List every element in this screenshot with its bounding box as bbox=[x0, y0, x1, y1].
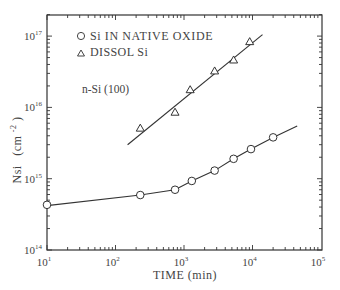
data-point-triangle bbox=[136, 124, 144, 131]
legend-triangle-marker-icon bbox=[78, 50, 85, 56]
data-point-triangle bbox=[186, 86, 194, 93]
x-tick-label: 102 bbox=[105, 255, 120, 268]
y-axis-title-close: ) bbox=[10, 117, 24, 122]
y-tick-label: 1015 bbox=[24, 172, 43, 185]
x-tick-label: 101 bbox=[37, 255, 52, 268]
data-point-circle bbox=[188, 177, 196, 185]
y-tick-label: 1017 bbox=[24, 29, 43, 42]
data-point-triangle bbox=[211, 67, 219, 74]
legend-label-native-oxide: Si IN NATIVE OXIDE bbox=[90, 29, 213, 43]
data-point-triangle bbox=[171, 108, 179, 115]
data-point-circle bbox=[211, 167, 219, 175]
legend-circle-marker-icon bbox=[77, 32, 84, 39]
fit-line bbox=[47, 126, 297, 206]
data-point-triangle bbox=[230, 56, 238, 63]
chart: 1011021031041051014101510161017 Si IN NA… bbox=[0, 0, 340, 290]
svg-text:Nsi (cm -2 ): Nsi (cm -2 ) bbox=[5, 117, 24, 184]
x-tick-label: 104 bbox=[242, 255, 257, 268]
data-point-circle bbox=[171, 186, 179, 194]
legend: Si IN NATIVE OXIDE DISSOL Si bbox=[77, 29, 213, 59]
data-point-circle bbox=[136, 191, 144, 199]
annotation-n-si-100: n-Si (100) bbox=[82, 83, 129, 96]
series-native-oxide bbox=[43, 126, 297, 209]
data-series bbox=[43, 35, 297, 209]
y-axis-title-symbol: Nsi bbox=[10, 165, 24, 183]
y-tick-label: 1016 bbox=[24, 100, 43, 113]
x-axis-title: TIME (min) bbox=[153, 268, 217, 282]
data-point-circle bbox=[269, 134, 277, 142]
x-tick-label: 105 bbox=[311, 255, 326, 268]
data-point-circle bbox=[230, 155, 238, 163]
y-tick-label: 1014 bbox=[24, 243, 43, 256]
y-axis-title-unit-exponent: -2 bbox=[9, 125, 18, 133]
y-axis-title-unit: (cm bbox=[10, 136, 24, 156]
y-axis-title: Nsi (cm -2 ) bbox=[5, 117, 24, 184]
x-tick-label: 103 bbox=[174, 255, 189, 268]
data-point-circle bbox=[43, 201, 51, 209]
legend-label-dissol-si: DISSOL Si bbox=[90, 45, 148, 59]
plot-area: 1011021031041051014101510161017 bbox=[24, 15, 326, 268]
plot-frame bbox=[47, 15, 322, 250]
data-point-triangle bbox=[246, 38, 254, 45]
data-point-circle bbox=[247, 145, 255, 153]
